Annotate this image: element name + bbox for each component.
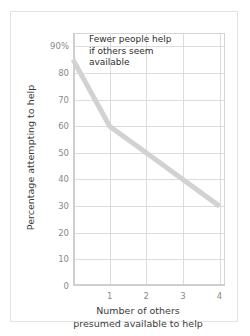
y-axis-tick-label: 50 xyxy=(58,148,69,158)
y-axis-tick-label: 20 xyxy=(58,228,69,238)
series-line-percentage-attempting-to-help xyxy=(73,60,220,206)
annotation-line: available xyxy=(89,57,172,69)
x-axis-title: Number of otherspresumed available to he… xyxy=(35,305,241,330)
y-axis-tick-label: 0 xyxy=(64,281,69,291)
x-axis-tick-label: 4 xyxy=(212,291,228,301)
x-axis-title-line: Number of others xyxy=(35,305,241,318)
annotation-callout: Fewer people helpif others seemavailable xyxy=(89,34,172,69)
x-axis-tick-label: 1 xyxy=(102,291,118,301)
chart-card: 0102030405060708090% Percentage attempti… xyxy=(10,11,238,322)
y-axis-tick-label: 10 xyxy=(58,254,69,264)
y-axis-tick-label: 60 xyxy=(58,121,69,131)
x-axis-tick-labels: 1234 xyxy=(73,291,225,303)
y-axis-tick-label: 80 xyxy=(58,68,69,78)
x-axis-tick-label: 3 xyxy=(175,291,191,301)
y-axis-tick-label: 90% xyxy=(50,41,69,51)
data-line-series xyxy=(73,33,225,286)
annotation-line: if others seem xyxy=(89,46,172,58)
plot-area xyxy=(73,33,225,286)
annotation-line: Fewer people help xyxy=(89,34,172,46)
y-axis-tick-label: 70 xyxy=(58,95,69,105)
y-axis-title: Percentage attempting to help xyxy=(25,58,36,258)
x-axis-title-line: presumed available to help xyxy=(35,318,241,331)
chart-figure: 0102030405060708090% Percentage attempti… xyxy=(0,0,250,336)
x-axis-tick-label: 2 xyxy=(138,291,154,301)
y-axis-tick-label: 40 xyxy=(58,174,69,184)
y-axis-tick-label: 30 xyxy=(58,201,69,211)
y-axis-tick-labels: 0102030405060708090% xyxy=(33,33,69,286)
